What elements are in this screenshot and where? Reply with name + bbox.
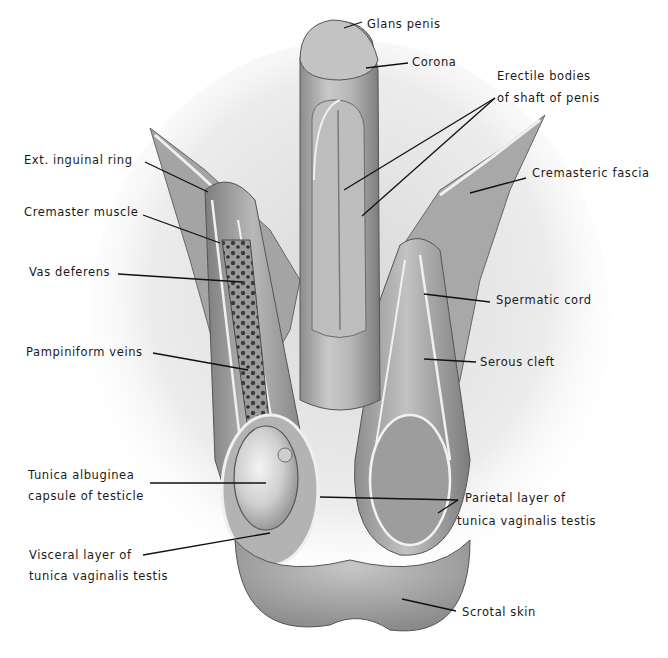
label-visceral-layer-2: tunica vaginalis testis: [29, 566, 168, 586]
label-cremaster-muscle: Cremaster muscle: [24, 202, 138, 222]
label-glans-penis: Glans penis: [367, 14, 441, 34]
label-tunica-albuginea-2: capsule of testicle: [28, 486, 144, 506]
label-serous-cleft: Serous cleft: [480, 352, 555, 372]
label-spermatic-cord: Spermatic cord: [496, 290, 592, 310]
label-vas-deferens: Vas deferens: [29, 262, 110, 282]
label-cremasteric-fascia: Cremasteric fascia: [532, 163, 650, 183]
label-parietal-layer-1: Parietal layer of: [465, 488, 566, 508]
label-erectile-bodies-2: of shaft of penis: [497, 88, 600, 108]
anatomy-figure: Glans penis Corona Erectile bodies of sh…: [0, 0, 668, 658]
label-parietal-layer-2: tunica vaginalis testis: [457, 511, 596, 531]
left-testis: [234, 426, 298, 530]
label-tunica-albuginea-1: Tunica albuginea: [28, 465, 134, 485]
label-ext-inguinal-ring: Ext. inguinal ring: [24, 150, 133, 170]
right-testis: [370, 415, 450, 545]
label-erectile-bodies-1: Erectile bodies: [497, 66, 591, 86]
label-corona: Corona: [412, 52, 457, 72]
label-pampiniform-veins: Pampiniform veins: [26, 342, 143, 362]
label-scrotal-skin: Scrotal skin: [462, 602, 536, 622]
label-visceral-layer-1: Visceral layer of: [29, 545, 132, 565]
